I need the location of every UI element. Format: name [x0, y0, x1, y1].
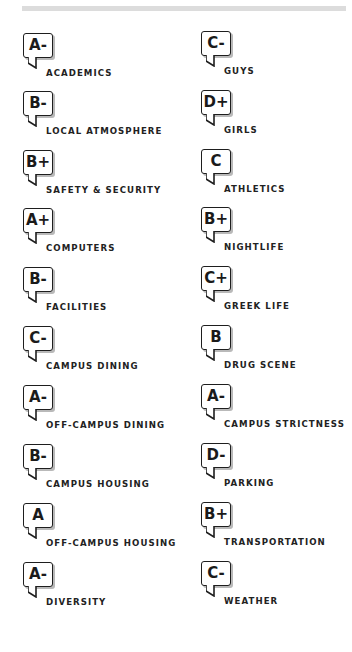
- grade-value: C: [210, 154, 221, 169]
- grade-item-campus-strictness: A- CAMPUS STRICTNESS: [201, 384, 352, 440]
- grade-item-campus-dining: C- CAMPUS DINING: [23, 326, 183, 382]
- speech-bubble-icon: B-: [23, 91, 53, 116]
- grade-value: B+: [26, 155, 50, 170]
- category-label: WEATHER: [224, 596, 278, 606]
- grade-value: B+: [204, 212, 228, 227]
- category-label: LOCAL ATMOSPHERE: [46, 126, 162, 136]
- speech-bubble-icon: C+: [201, 266, 231, 291]
- category-label: TRANSPORTATION: [224, 537, 326, 547]
- grade-item-diversity: A- DIVERSITY: [23, 562, 183, 618]
- category-label: GIRLS: [224, 125, 258, 135]
- grade-value: A-: [207, 389, 225, 404]
- speech-bubble-icon: B+: [201, 502, 231, 527]
- category-label: OFF-CAMPUS DINING: [46, 420, 165, 430]
- category-label: CAMPUS HOUSING: [46, 479, 150, 489]
- speech-bubble-icon: D+: [201, 90, 231, 115]
- grade-value: A-: [29, 390, 47, 405]
- grade-item-safety-security: B+ SAFETY & SECURITY: [23, 150, 183, 206]
- category-label: NIGHTLIFE: [224, 242, 284, 252]
- grade-item-nightlife: B+ NIGHTLIFE: [201, 207, 352, 263]
- grade-item-local-atmosphere: B- LOCAL ATMOSPHERE: [23, 91, 183, 147]
- grade-item-facilities: B- FACILITIES: [23, 267, 183, 323]
- category-label: DRUG SCENE: [224, 360, 297, 370]
- grade-value: B-: [29, 272, 47, 287]
- grade-value: A: [32, 508, 44, 523]
- speech-bubble-icon: A-: [23, 562, 53, 587]
- grade-item-greek-life: C+ GREEK LIFE: [201, 266, 352, 322]
- grade-item-girls: D+ GIRLS: [201, 90, 352, 146]
- grade-value: B-: [29, 96, 47, 111]
- grade-value: A-: [29, 567, 47, 582]
- speech-bubble-icon: D-: [201, 443, 231, 468]
- grade-value: C-: [207, 566, 225, 581]
- grade-value: B-: [29, 449, 47, 464]
- category-label: FACILITIES: [46, 302, 107, 312]
- speech-bubble-icon: A-: [201, 384, 231, 409]
- speech-bubble-icon: B+: [23, 150, 53, 175]
- speech-bubble-icon: B-: [23, 267, 53, 292]
- grade-value: B: [210, 330, 221, 345]
- grade-value: C-: [207, 36, 225, 51]
- category-label: SAFETY & SECURITY: [46, 185, 161, 195]
- grade-value: C-: [29, 331, 47, 346]
- grade-value: C+: [204, 271, 228, 286]
- category-label: OFF-CAMPUS HOUSING: [46, 538, 176, 548]
- speech-bubble-icon: A+: [23, 208, 53, 233]
- grade-value: D-: [207, 448, 226, 463]
- grade-item-weather: C- WEATHER: [201, 561, 352, 617]
- category-label: GREEK LIFE: [224, 301, 290, 311]
- speech-bubble-icon: B-: [23, 444, 53, 469]
- speech-bubble-icon: A: [23, 503, 53, 528]
- speech-bubble-icon: A-: [23, 385, 53, 410]
- grade-item-transportation: B+ TRANSPORTATION: [201, 502, 352, 558]
- speech-bubble-icon: C-: [201, 31, 231, 56]
- speech-bubble-icon: A-: [23, 33, 53, 58]
- grade-item-off-campus-housing: A OFF-CAMPUS HOUSING: [23, 503, 183, 559]
- speech-bubble-icon: C-: [23, 326, 53, 351]
- top-divider: [22, 6, 346, 11]
- speech-bubble-icon: B: [201, 325, 231, 350]
- grade-item-campus-housing: B- CAMPUS HOUSING: [23, 444, 183, 500]
- grade-item-athletics: C ATHLETICS: [201, 149, 352, 205]
- category-label: COMPUTERS: [46, 243, 115, 253]
- speech-bubble-icon: B+: [201, 207, 231, 232]
- grade-item-off-campus-dining: A- OFF-CAMPUS DINING: [23, 385, 183, 441]
- grade-value: B+: [204, 507, 228, 522]
- speech-bubble-icon: C: [201, 149, 231, 174]
- grade-value: A+: [26, 213, 50, 228]
- category-label: ATHLETICS: [224, 184, 286, 194]
- category-label: GUYS: [224, 66, 255, 76]
- grade-item-drug-scene: B DRUG SCENE: [201, 325, 352, 381]
- grade-value: D+: [203, 95, 228, 110]
- grade-item-academics: A- ACADEMICS: [23, 33, 183, 89]
- category-label: PARKING: [224, 478, 274, 488]
- speech-bubble-icon: C-: [201, 561, 231, 586]
- category-label: CAMPUS DINING: [46, 361, 139, 371]
- category-label: DIVERSITY: [46, 597, 106, 607]
- grade-item-parking: D- PARKING: [201, 443, 352, 499]
- grade-value: A-: [29, 38, 47, 53]
- category-label: ACADEMICS: [46, 68, 112, 78]
- grade-item-computers: A+ COMPUTERS: [23, 208, 183, 264]
- grade-item-guys: C- GUYS: [201, 31, 352, 87]
- category-label: CAMPUS STRICTNESS: [224, 419, 345, 429]
